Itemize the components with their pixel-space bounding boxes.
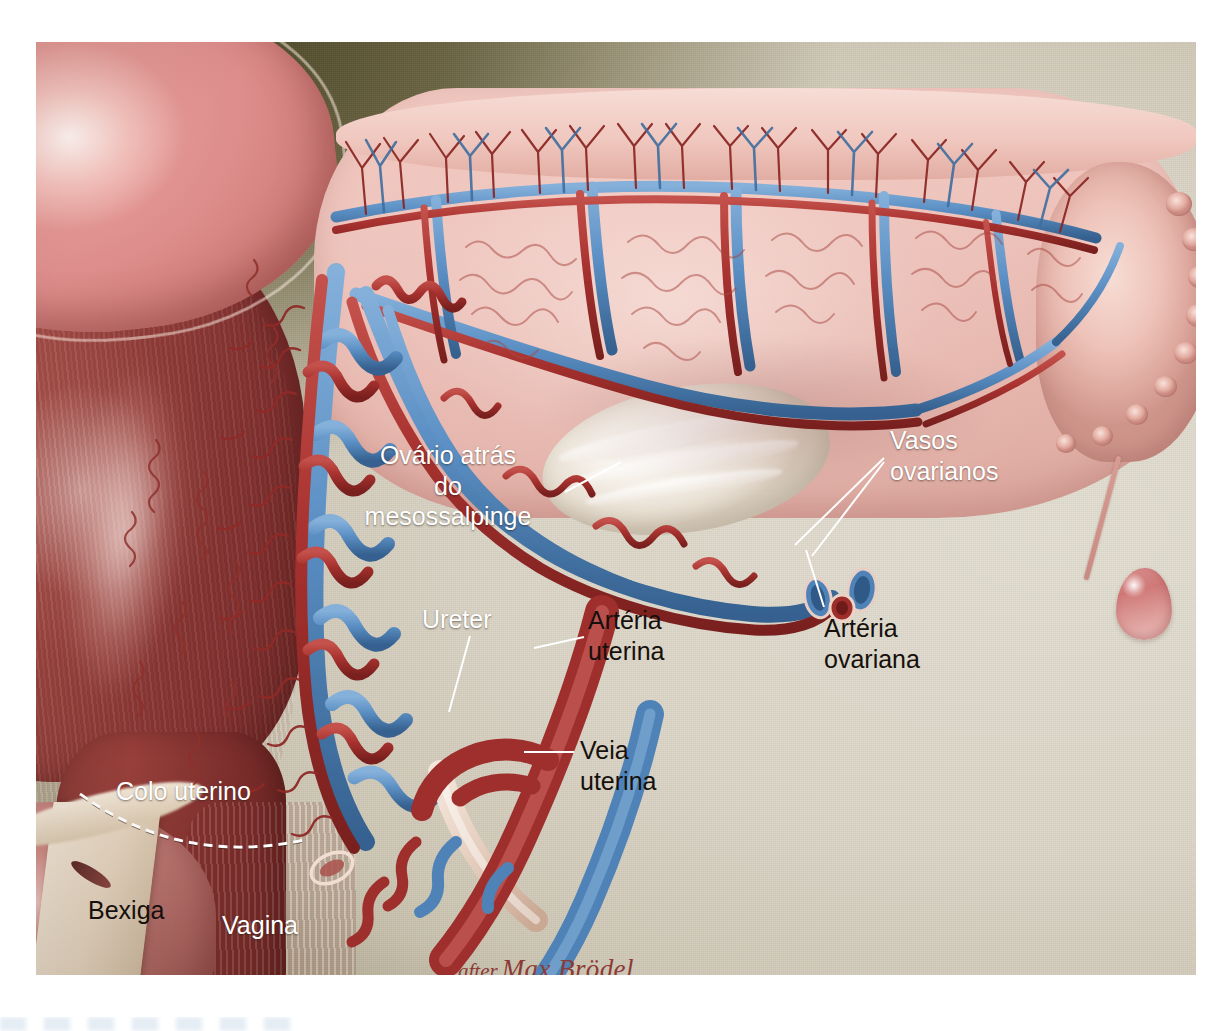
label-arteria-uterina: Artéria uterina bbox=[588, 605, 664, 666]
credit-line: after Max Brödel bbox=[458, 954, 634, 975]
illustration-plate: Ovário atrás do mesossalpinge Vasos ovar… bbox=[36, 42, 1196, 975]
label-bexiga: Bexiga bbox=[88, 895, 164, 926]
credit-name: Max Brödel bbox=[502, 954, 634, 975]
label-vagina: Vagina bbox=[222, 910, 298, 941]
label-ureter: Ureter bbox=[422, 604, 491, 635]
label-vasos-ovarianos: Vasos ovarianos bbox=[890, 425, 998, 486]
credit-prefix: after bbox=[458, 959, 498, 975]
label-ovario-atras-mesossalpinge: Ovário atrás do mesossalpinge bbox=[348, 440, 548, 532]
clipped-caption-remnant bbox=[0, 1017, 300, 1031]
plate-vignette bbox=[36, 42, 1196, 975]
label-arteria-ovariana: Artéria ovariana bbox=[824, 613, 920, 674]
label-veia-uterina: Veia uterina bbox=[580, 735, 656, 796]
label-colo-uterino: Colo uterino bbox=[116, 776, 251, 807]
